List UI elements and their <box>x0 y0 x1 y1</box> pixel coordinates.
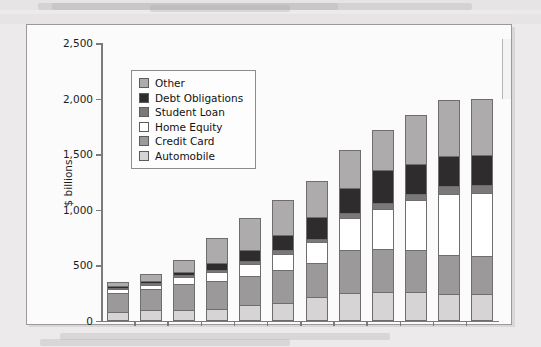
bar-segment-home-equity <box>207 273 227 282</box>
bar-segment-credit-card <box>174 285 194 311</box>
bar-segment-other <box>406 116 426 164</box>
bar-segment-debt-obligations <box>439 157 459 188</box>
table-row <box>339 150 361 321</box>
x-tick <box>366 322 368 326</box>
bar-segment-automobile <box>340 294 360 320</box>
legend-item-other: Other <box>139 76 243 91</box>
bar-segment-student-loan <box>406 195 426 202</box>
y-axis-title: $ billions <box>62 159 74 206</box>
bar-segment-automobile <box>273 304 293 320</box>
bar-segment-automobile <box>406 293 426 320</box>
table-row <box>206 238 228 321</box>
bar-segment-credit-card <box>472 257 492 295</box>
y-tick-label: 2,500 <box>63 37 93 49</box>
legend-item-label: Automobile <box>155 150 215 162</box>
bar-segment-other <box>207 239 227 265</box>
bar-segment-credit-card <box>273 271 293 304</box>
y-tick-label: 1,500 <box>63 148 93 160</box>
table-row <box>438 100 460 320</box>
bar-segment-debt-obligations <box>472 156 492 187</box>
bar-segment-debt-obligations <box>373 171 393 203</box>
x-tick <box>234 322 236 326</box>
x-tick <box>333 322 335 326</box>
bar-segment-home-equity <box>307 243 327 264</box>
legend-swatch-icon <box>139 107 149 117</box>
table-row <box>239 218 261 320</box>
x-tick <box>167 322 169 326</box>
y-tick-label: 0 <box>86 315 93 327</box>
legend-item-debt-obligations: Debt Obligations <box>139 91 243 106</box>
table-row <box>405 115 427 320</box>
bar-segment-debt-obligations <box>406 165 426 195</box>
bar-segment-other <box>307 182 327 218</box>
bar-segment-credit-card <box>240 277 260 306</box>
bar-segment-other <box>439 101 459 157</box>
bar-segment-automobile <box>207 310 227 320</box>
bar-segment-other <box>340 151 360 189</box>
bar-segment-automobile <box>373 293 393 320</box>
legend-item-label: Student Loan <box>155 106 225 118</box>
bar-segment-credit-card <box>307 264 327 298</box>
bar-segment-home-equity <box>240 265 260 277</box>
legend-item-label: Home Equity <box>155 121 223 133</box>
legend-swatch-icon <box>139 122 149 132</box>
y-tick-label: 500 <box>73 259 93 271</box>
x-tick <box>300 322 302 326</box>
bar-segment-credit-card <box>439 256 459 295</box>
bar-segment-home-equity <box>273 255 293 271</box>
bar-segment-other <box>240 219 260 251</box>
x-tick <box>466 322 468 326</box>
bar-segment-credit-card <box>108 294 128 313</box>
bar-segment-other <box>373 131 393 171</box>
bar-segment-home-equity <box>373 210 393 250</box>
bar-segment-student-loan <box>439 187 459 194</box>
legend-swatch-icon <box>139 151 149 161</box>
x-tick <box>400 322 402 326</box>
bar-segment-automobile <box>108 313 128 320</box>
x-tick <box>201 322 203 326</box>
bar-segment-credit-card <box>207 282 227 310</box>
table-row <box>471 99 493 321</box>
bar-segment-automobile <box>439 295 459 320</box>
bar-segment-debt-obligations <box>240 251 260 263</box>
legend-item-label: Other <box>155 77 185 89</box>
legend-swatch-icon <box>139 136 149 146</box>
bar-segment-other <box>174 261 194 273</box>
bar-segment-automobile <box>141 311 161 319</box>
bar-segment-credit-card <box>373 250 393 293</box>
legend-item-home-equity: Home Equity <box>139 120 243 135</box>
bar-segment-student-loan <box>472 186 492 194</box>
chart-figure: $ billions 05001,0001,5002,0002,500 1995… <box>26 24 512 325</box>
bar-segment-automobile <box>307 298 327 320</box>
bar-segment-debt-obligations <box>207 264 227 271</box>
legend-item-credit-card: Credit Card <box>139 134 243 149</box>
bar-segment-home-equity <box>340 219 360 251</box>
chart-legend: OtherDebt ObligationsStudent LoanHome Eq… <box>131 70 256 169</box>
bar-segment-debt-obligations <box>273 236 293 251</box>
table-row <box>140 274 162 320</box>
bar-segment-other <box>472 100 492 156</box>
legend-swatch-icon <box>139 78 149 88</box>
table-row <box>372 130 394 320</box>
bar-segment-debt-obligations <box>307 218 327 240</box>
bar-segment-home-equity <box>472 194 492 257</box>
bar-segment-home-equity <box>174 278 194 285</box>
bar-segment-credit-card <box>340 251 360 294</box>
legend-item-label: Credit Card <box>155 135 214 147</box>
y-tick-label: 2,000 <box>63 93 93 105</box>
x-tick <box>267 322 269 326</box>
legend-item-label: Debt Obligations <box>155 92 243 104</box>
table-row <box>306 181 328 321</box>
bar-segment-automobile <box>240 306 260 319</box>
x-tick <box>134 322 136 326</box>
bar-segment-home-equity <box>406 201 426 251</box>
background-text-line <box>40 339 290 346</box>
legend-item-automobile: Automobile <box>139 149 243 164</box>
x-tick <box>433 322 435 326</box>
bar-segment-home-equity <box>439 195 459 256</box>
legend-swatch-icon <box>139 93 149 103</box>
bar-segment-other <box>273 201 293 236</box>
table-row <box>272 200 294 320</box>
bar-segment-other <box>141 275 161 282</box>
bar-segment-automobile <box>472 295 492 319</box>
